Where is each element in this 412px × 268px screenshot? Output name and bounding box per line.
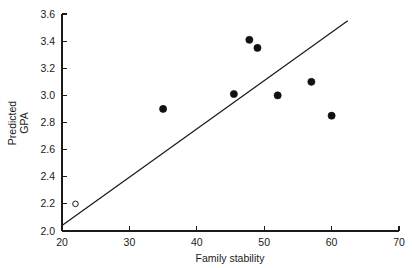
plot-canvas: 2.02.22.42.62.83.03.23.43.6 203040506070… xyxy=(0,0,412,268)
y-axis-tick-label: 3.6 xyxy=(40,8,55,20)
x-axis-title: Family stability xyxy=(196,252,266,264)
y-axis-tick-group xyxy=(62,14,67,231)
x-axis-tick-label: 30 xyxy=(124,236,136,248)
regression-line-group xyxy=(62,21,348,226)
x-axis-tick-label: 50 xyxy=(258,236,270,248)
data-points-group xyxy=(73,36,336,207)
data-point xyxy=(328,112,335,119)
scatter-chart: 2.02.22.42.62.83.03.23.43.6 203040506070… xyxy=(0,0,412,268)
x-axis-tick-group xyxy=(62,226,399,231)
y-axis-title-line-2: GPA xyxy=(18,112,30,133)
x-axis-tick-label: 20 xyxy=(56,236,68,248)
x-axis-tick-label: 40 xyxy=(191,236,203,248)
y-axis-tick-label: 2.6 xyxy=(40,143,55,155)
y-axis-tick-label: 2.4 xyxy=(40,170,55,182)
x-axis-tick-label: 60 xyxy=(326,236,338,248)
data-point xyxy=(254,44,261,51)
y-axis-tick-label: 2.8 xyxy=(40,116,55,128)
data-point xyxy=(230,90,237,97)
y-axis-tick-label: 2.2 xyxy=(40,197,55,209)
x-axis-tick-label: 70 xyxy=(393,236,405,248)
data-point xyxy=(308,78,315,85)
y-axis-tick-label: 3.4 xyxy=(40,35,55,47)
y-axis-tick-label: 2.0 xyxy=(40,225,55,237)
regression-line xyxy=(62,21,348,226)
data-point-open xyxy=(73,201,79,207)
y-axis-tick-labels: 2.02.22.42.62.83.03.23.43.6 xyxy=(40,8,55,237)
data-point xyxy=(246,36,253,43)
data-point xyxy=(160,105,167,112)
x-axis-tick-labels: 203040506070 xyxy=(56,236,405,248)
y-axis-title-line-1: Predicted xyxy=(6,101,18,146)
y-axis-tick-label: 3.0 xyxy=(40,89,55,101)
y-axis-tick-label: 3.2 xyxy=(40,62,55,74)
data-point xyxy=(274,92,281,99)
